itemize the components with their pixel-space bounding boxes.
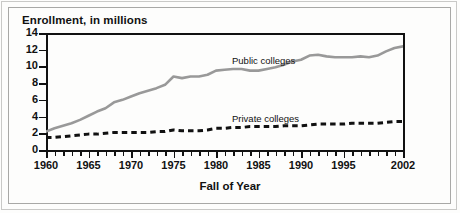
x-tick-major	[301, 152, 303, 158]
x-tick-label: 1960	[34, 159, 58, 171]
x-tick-minor	[267, 152, 269, 156]
x-tick-minor	[191, 152, 193, 156]
y-tick-label: 2	[4, 126, 38, 138]
x-tick-minor	[369, 152, 371, 156]
y-tick	[39, 66, 46, 68]
x-tick-minor	[55, 152, 57, 156]
x-tick-minor	[199, 152, 201, 156]
y-tick-label: 10	[4, 59, 38, 71]
y-tick	[39, 33, 46, 35]
series-lines	[46, 33, 403, 150]
enrollment-chart-figure: Enrollment, in millions 02468101214 1960…	[0, 0, 460, 213]
x-tick-label: 1970	[119, 159, 143, 171]
x-tick-major	[344, 152, 346, 158]
y-tick	[39, 83, 46, 85]
x-tick-label: 2002	[391, 159, 415, 171]
series-line-private-colleges	[46, 122, 403, 138]
x-tick-major	[216, 152, 218, 158]
x-tick-minor	[114, 152, 116, 156]
x-tick-minor	[250, 152, 252, 156]
x-axis-caption: Fall of Year	[0, 180, 460, 192]
x-tick-label: 1995	[331, 159, 355, 171]
x-tick-minor	[233, 152, 235, 156]
x-tick-minor	[148, 152, 150, 156]
y-tick	[39, 50, 46, 52]
x-tick-minor	[276, 152, 278, 156]
x-tick-minor	[140, 152, 142, 156]
x-tick-minor	[310, 152, 312, 156]
x-tick-minor	[318, 152, 320, 156]
x-tick-minor	[123, 152, 125, 156]
x-tick-major	[174, 152, 176, 158]
x-tick-major	[131, 152, 133, 158]
x-tick-minor	[63, 152, 65, 156]
y-tick-label: 4	[4, 110, 38, 122]
x-tick-minor	[157, 152, 159, 156]
x-tick-major	[89, 152, 91, 158]
x-tick-minor	[327, 152, 329, 156]
y-tick-label: 12	[4, 43, 38, 55]
y-axis-caption: Enrollment, in millions	[22, 14, 148, 26]
x-tick-minor	[97, 152, 99, 156]
x-tick-label: 1965	[76, 159, 100, 171]
y-tick	[39, 117, 46, 119]
y-tick-label: 6	[4, 93, 38, 105]
x-tick-label: 1985	[246, 159, 270, 171]
y-tick-label: 0	[4, 143, 38, 155]
y-tick	[39, 100, 46, 102]
x-tick-label: 1990	[289, 159, 313, 171]
y-tick	[39, 133, 46, 135]
plot-area	[46, 33, 403, 150]
private-colleges-label: Private colleges	[232, 113, 299, 124]
x-tick-minor	[106, 152, 108, 156]
x-tick-minor	[242, 152, 244, 156]
x-tick-minor	[165, 152, 167, 156]
x-tick-major	[403, 152, 405, 158]
x-tick-label: 1980	[204, 159, 228, 171]
x-tick-minor	[72, 152, 74, 156]
x-tick-major	[46, 152, 48, 158]
x-tick-minor	[378, 152, 380, 156]
x-tick-major	[259, 152, 261, 158]
x-tick-minor	[386, 152, 388, 156]
x-tick-minor	[293, 152, 295, 156]
x-tick-minor	[352, 152, 354, 156]
plot-frame-right	[403, 33, 405, 152]
y-tick	[39, 150, 46, 152]
public-colleges-label: Public colleges	[232, 55, 295, 66]
x-tick-minor	[335, 152, 337, 156]
x-tick-minor	[182, 152, 184, 156]
x-tick-label: 1975	[161, 159, 185, 171]
y-tick-label: 14	[4, 26, 38, 38]
x-tick-minor	[361, 152, 363, 156]
x-tick-minor	[284, 152, 286, 156]
x-tick-minor	[80, 152, 82, 156]
x-tick-minor	[225, 152, 227, 156]
x-tick-minor	[395, 152, 397, 156]
series-line-public-colleges	[46, 46, 403, 131]
x-tick-minor	[208, 152, 210, 156]
y-tick-label: 8	[4, 76, 38, 88]
